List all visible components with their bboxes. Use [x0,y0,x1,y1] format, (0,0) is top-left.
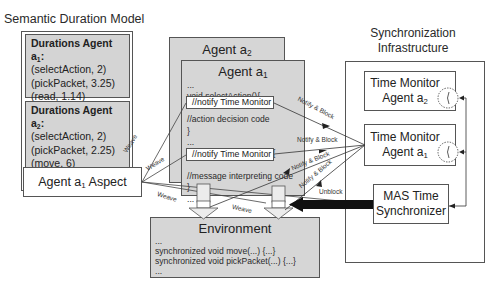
clock-icon [438,88,458,108]
notify-block-label: Notify & Block [297,136,337,143]
clock-icon [438,142,458,162]
call-arrows [189,184,293,219]
unblock-label: Unblock [319,188,342,195]
connections-overlay [0,0,490,285]
unblock-arrow [289,197,373,212]
